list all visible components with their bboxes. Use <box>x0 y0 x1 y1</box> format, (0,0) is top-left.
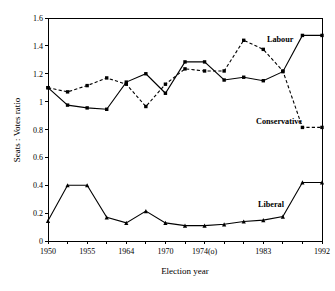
y-tick-label: 0.8 <box>33 126 43 135</box>
data-point-conservative <box>125 83 128 86</box>
data-series-group <box>48 35 322 225</box>
x-tick-label: 1974(o) <box>192 247 218 256</box>
data-point-conservative <box>85 84 88 87</box>
x-tick-label: 1955 <box>79 247 95 256</box>
data-point-labour <box>301 34 304 37</box>
y-tick-label: 0.2 <box>33 209 43 218</box>
x-tick-label: 1964 <box>118 247 134 256</box>
series-line-labour <box>48 35 322 109</box>
series-line-conservative <box>48 40 322 127</box>
y-tick-label: 1.2 <box>33 70 43 79</box>
data-point-conservative <box>242 39 245 42</box>
data-point-labour <box>85 106 88 109</box>
y-tick-label: 0.4 <box>33 181 43 190</box>
data-point-labour <box>320 34 323 37</box>
data-point-labour <box>105 108 108 111</box>
data-point-conservative <box>320 126 323 129</box>
data-point-conservative <box>281 69 284 72</box>
data-point-conservative <box>66 90 69 93</box>
data-point-conservative <box>203 69 206 72</box>
data-point-labour <box>66 103 69 106</box>
data-point-conservative <box>46 86 49 89</box>
data-point-conservative <box>144 105 147 108</box>
y-axis-ticks: 00.20.40.60.811.21.41.6 <box>33 14 48 246</box>
data-point-labour <box>183 60 186 63</box>
series-label-labour: Labour <box>267 35 294 44</box>
y-axis-title: Seats : Votes ratio <box>12 97 22 162</box>
series-label-conservative: Conservative <box>256 117 302 126</box>
x-tick-label: 1950 <box>40 247 56 256</box>
data-point-labour <box>144 72 147 75</box>
data-point-labour <box>262 79 265 82</box>
data-point-conservative <box>183 67 186 70</box>
series-label-liberal: Liberal <box>258 200 285 209</box>
data-point-liberal <box>144 209 148 213</box>
x-tick-label: 1970 <box>157 247 173 256</box>
x-tick-label: 1992 <box>314 247 330 256</box>
data-point-labour <box>222 78 225 81</box>
data-point-conservative <box>164 83 167 86</box>
y-tick-label: 1 <box>39 98 43 107</box>
data-point-labour <box>242 76 245 79</box>
chart-container: 00.20.40.60.811.21.41.6 1950195519641970… <box>0 0 335 291</box>
data-point-labour <box>203 60 206 63</box>
y-tick-label: 1.4 <box>33 42 43 51</box>
x-axis-title: Election year <box>161 266 209 276</box>
data-point-conservative <box>301 126 304 129</box>
data-point-conservative <box>222 69 225 72</box>
y-tick-label: 0 <box>39 237 43 246</box>
data-point-conservative <box>262 48 265 51</box>
seats-votes-ratio-line-chart: 00.20.40.60.811.21.41.6 1950195519641970… <box>0 0 335 291</box>
x-tick-label: 1983 <box>255 247 271 256</box>
data-point-labour <box>164 92 167 95</box>
data-point-conservative <box>105 76 108 79</box>
y-tick-label: 1.6 <box>33 14 43 23</box>
y-tick-label: 0.6 <box>33 153 43 162</box>
data-point-liberal <box>46 219 50 223</box>
data-markers-group <box>46 34 324 228</box>
x-axis-ticks: 19501955196419701974(o)19831992 <box>40 241 330 256</box>
